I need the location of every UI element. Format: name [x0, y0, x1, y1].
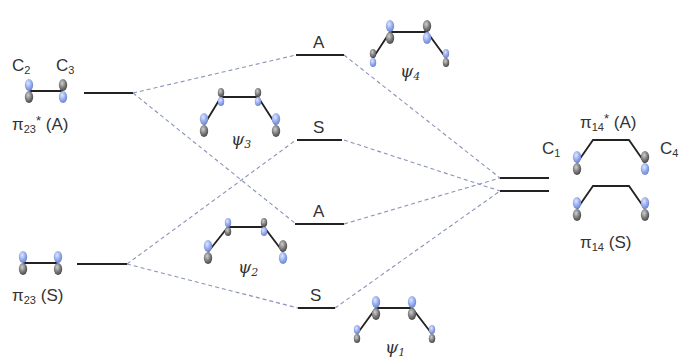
correlation-diagram — [0, 0, 688, 362]
energy-levels — [77, 55, 549, 308]
label-psi3: ψ3 — [231, 131, 251, 150]
symmetry-label-psi3: S — [313, 119, 324, 136]
orbital-pi14-star-icon — [573, 140, 649, 175]
label-psi4: ψ4 — [400, 63, 420, 82]
symmetry-label-psi2: A — [313, 203, 324, 220]
orbital-pi23-star-icon — [25, 79, 67, 103]
orbital-pi23-icon — [19, 251, 62, 275]
label-pi14: π14 (S) — [580, 234, 631, 253]
atom-label-c2: C2 — [12, 57, 30, 76]
orbital-pi14-icon — [573, 186, 649, 221]
label-pi14-star: π14* (A) — [580, 112, 636, 133]
atom-label-c4: C4 — [660, 140, 678, 159]
orbital-psi1-icon — [354, 296, 435, 343]
atom-label-c3: C3 — [56, 57, 74, 76]
label-psi2: ψ2 — [238, 259, 258, 278]
label-pi23: π23 (S) — [12, 287, 63, 306]
orbital-psi4-icon — [370, 20, 449, 67]
symmetry-label-psi1: S — [310, 287, 321, 304]
atom-label-c1: C1 — [542, 140, 560, 159]
symmetry-label-psi4: A — [313, 34, 324, 51]
correlation-lines — [127, 55, 500, 308]
label-pi23-star: π23* (A) — [12, 114, 68, 135]
label-psi1: ψ1 — [385, 339, 405, 358]
